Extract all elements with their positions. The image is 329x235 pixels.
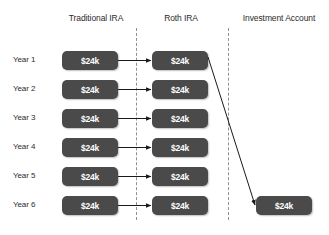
box-value: $24k (62, 172, 118, 181)
row-label-year-4: Year 4 (13, 142, 35, 151)
column-header-roth-ira: Roth IRA (164, 13, 198, 23)
box-value: $24k (62, 56, 118, 65)
box-roth-year-6: $24k (152, 196, 208, 215)
box-value: $24k (256, 201, 312, 210)
box-value: $24k (62, 201, 118, 210)
column-divider-2 (228, 28, 229, 220)
box-roth-year-3: $24k (152, 109, 208, 128)
column-header-investment-account: Investment Account (243, 13, 315, 23)
column-divider-1 (136, 28, 137, 220)
box-roth-year-1: $24k (152, 51, 208, 70)
column-header-traditional-ira: Traditional IRA (69, 13, 123, 23)
row-label-year-2: Year 2 (13, 84, 35, 93)
box-traditional-year-4: $24k (62, 138, 118, 157)
box-value: $24k (62, 114, 118, 123)
box-value: $24k (152, 172, 208, 181)
box-value: $24k (152, 114, 208, 123)
row-label-year-3: Year 3 (13, 113, 35, 122)
conversion-arrows (118, 61, 151, 206)
row-label-year-6: Year 6 (13, 200, 35, 209)
box-traditional-year-5: $24k (62, 167, 118, 186)
box-value: $24k (152, 143, 208, 152)
box-traditional-year-2: $24k (62, 80, 118, 99)
box-roth-year-4: $24k (152, 138, 208, 157)
box-traditional-year-1: $24k (62, 51, 118, 70)
row-label-year-1: Year 1 (13, 55, 35, 64)
row-label-year-5: Year 5 (13, 171, 35, 180)
box-value: $24k (62, 143, 118, 152)
box-value: $24k (62, 85, 118, 94)
box-roth-year-2: $24k (152, 80, 208, 99)
roth-conversion-ladder-diagram: Traditional IRA Roth IRA Investment Acco… (0, 0, 329, 235)
box-roth-year-5: $24k (152, 167, 208, 186)
box-value: $24k (152, 201, 208, 210)
arrow-roth-year1-to-investment-year6 (208, 57, 255, 205)
box-investment-year-6: $24k (256, 196, 312, 215)
box-value: $24k (152, 56, 208, 65)
box-traditional-year-3: $24k (62, 109, 118, 128)
box-value: $24k (152, 85, 208, 94)
box-traditional-year-6: $24k (62, 196, 118, 215)
